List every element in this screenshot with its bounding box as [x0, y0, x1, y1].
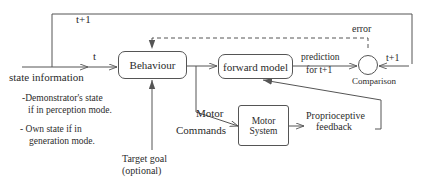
label-t-plus-1-top: t+1 [76, 13, 91, 25]
label-state-information: state information [9, 71, 84, 83]
label-t-plus-1-right: t+1 [386, 52, 399, 63]
wire-error-dashed [152, 38, 368, 49]
label-error: error [352, 23, 371, 34]
node-behaviour[interactable]: Behaviour [118, 51, 187, 79]
label-motor-commands-line1: Motor [196, 107, 224, 119]
label-own-state-line2: generation mode. [29, 136, 95, 147]
node-forward-model-label: forward model [223, 61, 288, 73]
label-comparison: Comparison [352, 76, 396, 86]
node-behaviour-label: Behaviour [130, 59, 176, 71]
label-demonstrator-line2: if in perception mode. [28, 105, 112, 116]
label-proprioceptive-line2: feedback [316, 121, 352, 132]
node-forward-model[interactable]: forward model [218, 54, 293, 79]
label-target-goal-line1: Target goal [122, 153, 167, 164]
label-motor-commands-line2: Commands [176, 124, 226, 136]
node-comparison-circle[interactable] [358, 55, 378, 75]
label-t-edge: t [93, 50, 96, 62]
label-prediction-line2: for t+1 [306, 65, 332, 76]
node-motor-system-label-line2: System [250, 126, 278, 136]
label-own-state-line1: - Own state if in [20, 124, 82, 135]
label-target-goal-line2: (optional) [122, 165, 161, 176]
diagram-canvas: Behaviour forward model Motor System t+1… [0, 0, 428, 186]
label-prediction-line1: prediction [301, 52, 340, 63]
node-motor-system-label-line1: Motor [252, 116, 276, 126]
label-demonstrator-line1: -Demonstrator's state [22, 93, 103, 104]
label-proprioceptive-line1: Proprioceptive [306, 110, 365, 121]
node-motor-system[interactable]: Motor System [238, 105, 289, 146]
